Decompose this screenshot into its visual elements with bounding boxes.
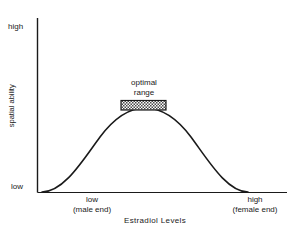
x-axis-tick-low-primary: low: [86, 195, 98, 204]
y-axis-tick-high: high: [8, 22, 23, 32]
optimal-range-label-line2: range: [117, 88, 171, 98]
chart-figure: high low spatial ability low (male end) …: [0, 0, 287, 233]
x-axis-tick-low-secondary: (male end): [64, 205, 120, 215]
optimal-range-label-line1: optimal: [131, 78, 157, 87]
x-axis-tick-high-primary: high: [247, 195, 262, 204]
spatial-ability-curve: [42, 108, 248, 192]
x-axis-tick-low: low (male end): [64, 195, 120, 214]
y-axis-title: spatial ability: [7, 75, 17, 137]
y-axis-tick-low: low: [11, 182, 23, 192]
optimal-range-marker: [121, 101, 166, 111]
x-axis-tick-high: high (female end): [226, 195, 284, 214]
x-axis-tick-high-secondary: (female end): [226, 205, 284, 215]
x-axis-title: Estradiol Levels: [95, 216, 215, 226]
optimal-range-label: optimal range: [117, 78, 171, 98]
